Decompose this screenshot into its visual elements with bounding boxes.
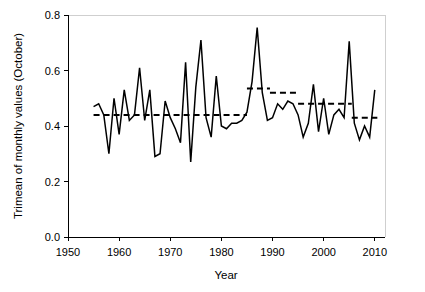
y-axis-title: Trimean of monthly values (October) <box>12 33 24 219</box>
x-tick-label: 1960 <box>107 246 131 258</box>
line-chart: 0.00.20.40.60.8 195019601970198019902000… <box>0 0 425 292</box>
x-tick-label: 1980 <box>209 246 233 258</box>
x-axis-title: Year <box>214 269 237 281</box>
chart-figure: 0.00.20.40.60.8 195019601970198019902000… <box>0 0 425 292</box>
y-tick-label: 0.2 <box>45 176 60 188</box>
x-tick-label: 2000 <box>311 246 335 258</box>
x-tick-label: 1990 <box>260 246 284 258</box>
y-tick-label: 0.0 <box>45 231 60 243</box>
y-tick-label: 0.8 <box>45 9 60 21</box>
x-tick-label: 1950 <box>56 246 80 258</box>
x-tick-label: 2010 <box>363 246 387 258</box>
y-tick-label: 0.6 <box>45 65 60 77</box>
x-tick-label: 1970 <box>158 246 182 258</box>
y-tick-label: 0.4 <box>45 120 60 132</box>
